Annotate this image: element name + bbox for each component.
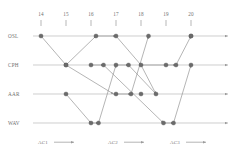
flight-node <box>96 121 100 125</box>
flight-node <box>139 92 143 96</box>
row-axis-lines <box>33 36 228 123</box>
network-plot-canvas: 14151617181920 OSLCPHAARWAV AC1AC2AC3 <box>0 0 238 155</box>
flight-node <box>171 121 175 125</box>
flight-node <box>164 63 168 67</box>
x-tick-label: 15 <box>63 11 69 17</box>
row-label-wav: WAV <box>8 120 20 126</box>
flight-leg <box>176 36 191 65</box>
x-tick-label: 17 <box>113 11 119 17</box>
flight-node <box>189 63 193 67</box>
x-tick-label: 18 <box>138 11 144 17</box>
flight-leg <box>66 65 114 94</box>
legend-label-ac1: AC1 <box>38 140 48 145</box>
row-axis-labels: OSLCPHAARWAV <box>8 33 20 126</box>
flight-node <box>89 121 93 125</box>
flight-node <box>129 92 133 96</box>
legend-label-ac3: AC3 <box>170 140 180 145</box>
x-tick-label: 20 <box>188 11 194 17</box>
flight-node <box>114 34 118 38</box>
row-label-aar: AAR <box>8 91 20 97</box>
row-label-osl: OSL <box>8 33 18 39</box>
flight-node <box>174 63 178 67</box>
flight-node <box>126 63 130 67</box>
flight-node <box>94 34 98 38</box>
flight-node <box>39 34 43 38</box>
flight-node <box>114 92 118 96</box>
flight-nodes <box>39 34 193 125</box>
aircraft-legend: AC1AC2AC3 <box>38 140 206 145</box>
flight-node <box>64 92 68 96</box>
row-label-cph: CPH <box>8 62 19 68</box>
x-tick-label: 14 <box>38 11 44 17</box>
x-tick-label: 16 <box>88 11 94 17</box>
flight-leg <box>41 36 66 65</box>
legend-label-ac2: AC2 <box>108 140 118 145</box>
flight-edges <box>41 36 191 123</box>
flight-node <box>154 92 158 96</box>
flight-leg <box>66 94 91 123</box>
flight-node <box>189 34 193 38</box>
time-space-network-diagram: 14151617181920 OSLCPHAARWAV AC1AC2AC3 <box>0 0 238 155</box>
flight-leg <box>116 36 141 65</box>
flight-leg <box>141 65 156 94</box>
x-axis-ticks: 14151617181920 <box>38 11 194 26</box>
x-tick-label: 19 <box>163 11 169 17</box>
flight-node <box>139 63 143 67</box>
flight-node <box>64 63 68 67</box>
flight-node <box>114 63 118 67</box>
flight-node <box>146 34 150 38</box>
flight-leg <box>66 36 96 65</box>
flight-node <box>161 121 165 125</box>
flight-node <box>89 63 93 67</box>
flight-node <box>101 63 105 67</box>
